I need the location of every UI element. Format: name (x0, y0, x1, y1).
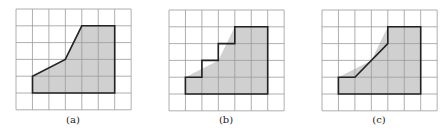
panel-label-a: (a) (53, 114, 93, 125)
panel-label-c: (c) (359, 114, 399, 125)
panel-label-b: (b) (206, 114, 246, 125)
figure-canvas (0, 0, 446, 132)
